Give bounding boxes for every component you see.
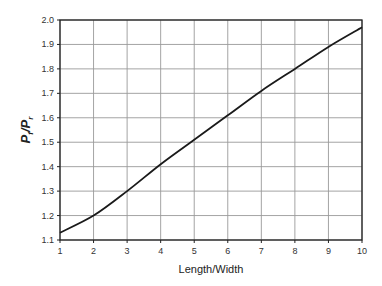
x-tick-label: 3 (125, 246, 130, 256)
y-tick-label: 1.7 (41, 88, 54, 98)
y-tick-label: 1.1 (41, 235, 54, 245)
y-tick-label: 2.0 (41, 15, 54, 25)
x-tick-label: 6 (225, 246, 230, 256)
y-tick-label: 1.9 (41, 39, 54, 49)
line-chart: 1.11.21.31.41.51.61.71.81.92.0 123456789… (0, 0, 382, 286)
data-line (60, 27, 362, 232)
x-tick-label: 1 (57, 246, 62, 256)
x-axis-label: Length/Width (179, 263, 244, 275)
y-tick-label: 1.4 (41, 162, 54, 172)
y-tick-label: 1.6 (41, 113, 54, 123)
y-axis-ticks: 1.11.21.31.41.51.61.71.81.92.0 (41, 15, 60, 245)
y-tick-label: 1.5 (41, 137, 54, 147)
y-tick-label: 1.8 (41, 64, 54, 74)
y-axis-label: Pf/Pr (18, 116, 35, 144)
x-tick-label: 9 (326, 246, 331, 256)
x-axis-ticks: 12345678910 (57, 240, 367, 256)
x-tick-label: 7 (259, 246, 264, 256)
y-tick-label: 1.3 (41, 186, 54, 196)
x-tick-label: 5 (192, 246, 197, 256)
y-tick-label: 1.2 (41, 211, 54, 221)
x-tick-label: 8 (292, 246, 297, 256)
x-tick-label: 4 (158, 246, 163, 256)
x-tick-label: 10 (357, 246, 367, 256)
x-tick-label: 2 (91, 246, 96, 256)
